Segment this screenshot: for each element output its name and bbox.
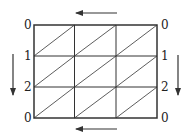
right-label-2: 2 xyxy=(161,81,169,93)
left-label-1: 1 xyxy=(24,50,32,62)
right-label-1: 1 xyxy=(161,50,169,62)
right-label-0: 0 xyxy=(161,19,169,31)
diagonals xyxy=(34,25,157,118)
left-label-3: 0 xyxy=(24,112,32,124)
left-label-2: 2 xyxy=(24,81,32,93)
right-label-3: 0 xyxy=(161,112,169,124)
left-label-0: 0 xyxy=(24,19,32,31)
